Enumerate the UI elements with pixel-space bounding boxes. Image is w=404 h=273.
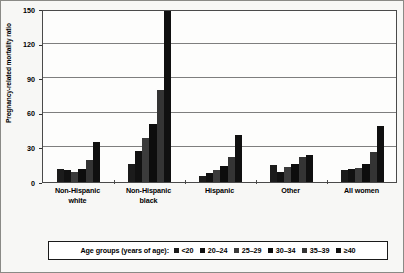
x-axis-label: Hispanic — [184, 186, 255, 196]
legend-item: 30–34 — [268, 246, 295, 255]
chart-legend: Age groups (years of age): <2020–2425–29… — [48, 241, 388, 260]
bar — [142, 138, 149, 182]
bar — [228, 157, 235, 182]
y-tick-label-90: 90 — [9, 76, 35, 83]
bar — [213, 170, 220, 182]
bar — [64, 170, 71, 182]
y-axis-title-container: Pregnancy-related mortality ratio — [1, 41, 15, 151]
y-tick-label-120: 120 — [9, 41, 35, 48]
legend-items: <2020–2425–2930–3435–39≥40 — [174, 246, 356, 255]
bar — [128, 164, 135, 182]
bar — [270, 165, 277, 182]
bars-layer — [43, 11, 396, 182]
legend-swatch-icon — [336, 248, 341, 253]
x-axis-tick — [114, 180, 115, 184]
x-axis-tick — [327, 180, 328, 184]
bar — [306, 155, 313, 182]
x-axis-label: All women — [326, 186, 397, 196]
y-tick-label-0: 0 — [9, 180, 35, 187]
bar — [220, 166, 227, 182]
legend-swatch-icon — [302, 248, 307, 253]
y-tick-label-30: 30 — [9, 145, 35, 152]
bar-group — [199, 11, 242, 182]
bar — [71, 172, 78, 182]
legend-label: <20 — [181, 246, 193, 255]
legend-item: 35–39 — [302, 246, 329, 255]
bar — [93, 142, 100, 182]
legend-item: 20–24 — [200, 246, 227, 255]
chart-figure: Pregnancy-related mortality ratio 030609… — [0, 0, 404, 273]
bar-group — [270, 11, 313, 182]
legend-label: 25–29 — [242, 246, 262, 255]
bar — [135, 151, 142, 182]
legend-label: 20–24 — [208, 246, 228, 255]
x-axis-label: Non-Hispanicblack — [113, 186, 184, 205]
bar — [157, 90, 164, 182]
x-axis-label: Other — [255, 186, 326, 196]
legend-label: 35–39 — [310, 246, 330, 255]
bar — [149, 124, 156, 182]
bar — [235, 135, 242, 182]
x-axis-tick — [185, 180, 186, 184]
bar-group — [341, 11, 384, 182]
y-tick-label-150: 150 — [9, 7, 35, 14]
y-tick-label-60: 60 — [9, 110, 35, 117]
bar — [291, 164, 298, 182]
bar — [341, 170, 348, 182]
bar — [206, 173, 213, 182]
legend-title: Age groups (years of age): — [80, 246, 168, 255]
bar — [370, 152, 377, 182]
bar — [164, 11, 171, 182]
bar-group — [128, 11, 171, 182]
bar — [199, 176, 206, 182]
legend-label: 30–34 — [276, 246, 296, 255]
legend-swatch-icon — [234, 248, 239, 253]
legend-swatch-icon — [174, 248, 179, 253]
legend-item: ≥40 — [336, 246, 355, 255]
bar — [277, 172, 284, 182]
legend-label: ≥40 — [344, 246, 356, 255]
bar — [348, 169, 355, 182]
legend-swatch-icon — [200, 248, 205, 253]
legend-swatch-icon — [268, 248, 273, 253]
legend-item: 25–29 — [234, 246, 261, 255]
x-axis-labels: Non-HispanicwhiteNon-HispanicblackHispan… — [42, 186, 397, 216]
bar — [57, 169, 64, 182]
bar — [78, 169, 85, 182]
bar — [362, 164, 369, 182]
bar — [86, 160, 93, 182]
x-axis-tick — [256, 180, 257, 184]
y-tick-mark-0 — [39, 183, 42, 184]
bar — [377, 126, 384, 183]
bar-group — [57, 11, 100, 182]
x-axis-label: Non-Hispanicwhite — [42, 186, 113, 205]
plot-area — [42, 10, 397, 183]
legend-item: <20 — [174, 246, 193, 255]
bar — [299, 157, 306, 182]
bar — [355, 168, 362, 182]
bar — [284, 167, 291, 182]
